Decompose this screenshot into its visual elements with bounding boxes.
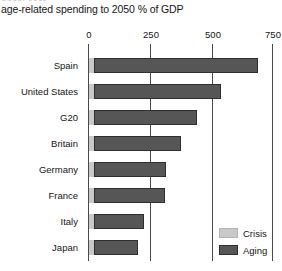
bar-row: Germany — [88, 156, 272, 182]
chart-title: age-related spending to 2050 % of GDP — [1, 3, 184, 15]
category-label: Japan — [52, 242, 78, 253]
bar-row: United States — [88, 78, 272, 104]
axis-tick-label-250: 250 — [143, 29, 159, 40]
stacked-bar[interactable] — [89, 136, 181, 151]
axis-tick-label-0: 0 — [86, 29, 91, 40]
bar-row: Spain — [88, 52, 272, 78]
axis-tick-750 — [272, 44, 273, 52]
axis-tick-250 — [150, 44, 151, 52]
category-label: Spain — [54, 60, 78, 71]
chart-legend: Crisis Aging — [219, 226, 279, 260]
bar-segment-aging[interactable] — [94, 162, 166, 177]
category-label: United States — [21, 86, 78, 97]
chart-figure: fiscal cost age-related spending to 2050… — [0, 0, 282, 271]
bar-segment-aging[interactable] — [94, 58, 258, 73]
bar-row: France — [88, 182, 272, 208]
bar-row: Britain — [88, 130, 272, 156]
axis-tick-0 — [88, 44, 89, 52]
legend-label: Aging — [243, 245, 267, 256]
legend-label: Crisis — [243, 228, 267, 239]
legend-swatch-crisis-icon — [219, 228, 238, 238]
category-label: Germany — [39, 164, 78, 175]
stacked-bar[interactable] — [89, 214, 144, 229]
stacked-bar[interactable] — [89, 162, 166, 177]
bar-row: G20 — [88, 104, 272, 130]
category-label: G20 — [60, 112, 78, 123]
stacked-bar[interactable] — [89, 110, 197, 125]
bar-segment-aging[interactable] — [94, 136, 181, 151]
clipped-header-artifact: fiscal cost — [2, 0, 152, 1]
bar-segment-aging[interactable] — [94, 188, 165, 203]
stacked-bar[interactable] — [89, 188, 165, 203]
legend-swatch-aging-icon — [219, 245, 238, 255]
stacked-bar[interactable] — [89, 240, 138, 255]
stacked-bar[interactable] — [89, 58, 258, 73]
bar-segment-aging[interactable] — [94, 214, 144, 229]
legend-item-crisis[interactable]: Crisis — [219, 226, 279, 240]
category-label: France — [48, 190, 78, 201]
category-label: Britain — [51, 138, 78, 149]
category-label: Italy — [61, 216, 78, 227]
axis-tick-label-750: 750 — [265, 29, 281, 40]
axis-tick-500 — [212, 44, 213, 52]
axis-tick-label-500: 500 — [205, 29, 221, 40]
bar-segment-aging[interactable] — [94, 84, 222, 99]
bar-segment-aging[interactable] — [94, 110, 197, 125]
stacked-bar[interactable] — [89, 84, 221, 99]
bar-segment-aging[interactable] — [94, 240, 138, 255]
legend-item-aging[interactable]: Aging — [219, 243, 279, 257]
